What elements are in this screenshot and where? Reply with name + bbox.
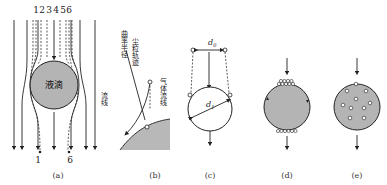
- particle: [223, 48, 227, 52]
- caption-c: (c): [205, 171, 216, 180]
- panel-a: 液滴 1 2 3 4 5 6 1 6 流线 (a): [14, 5, 109, 180]
- caption-e: (e): [352, 171, 363, 180]
- particles-top: [277, 79, 294, 85]
- caption-d: (d): [281, 171, 292, 180]
- caption-a: (a): [52, 171, 63, 180]
- streamline: [22, 20, 27, 148]
- collector-surface: [120, 119, 170, 150]
- panel-d: (d): [264, 58, 310, 180]
- label-d0: d0: [208, 38, 217, 48]
- particle-trajectory: [34, 20, 36, 66]
- droplet: [334, 84, 380, 130]
- streamline-label: 流线: [100, 91, 109, 106]
- panel-e: (e): [334, 58, 380, 180]
- particle: [145, 125, 149, 129]
- trajectory-number: 2: [39, 5, 45, 15]
- droplet: [264, 84, 310, 130]
- trajectory-number: 1: [35, 155, 41, 165]
- trajectory-number: 3: [46, 5, 52, 15]
- trajectory-end-dot: [39, 151, 42, 154]
- trajectory-number: 6: [66, 5, 72, 15]
- label-gas-streamline: 气体流线: [159, 77, 168, 106]
- trajectory-end-dot: [68, 151, 71, 154]
- trajectory-number: 1: [33, 5, 39, 15]
- panel-c: d0 d1 (c): [188, 38, 232, 180]
- label-particle-trajectory: 尘粒轨迹: [131, 37, 140, 67]
- particle-trajectory: [66, 20, 69, 64]
- dashed-streamline: [225, 52, 229, 93]
- streamline: [80, 20, 86, 148]
- trajectory-number: 4: [53, 5, 59, 15]
- droplet-label: 液滴: [45, 79, 63, 90]
- particle: [148, 80, 152, 84]
- particle: [191, 48, 195, 52]
- label-curvature-radius: 曲率半径: [120, 29, 129, 58]
- caption-b: (b): [149, 171, 160, 180]
- trajectory-number: 6: [67, 155, 73, 165]
- dashed-streamline: [191, 52, 193, 93]
- figure-diagram: 液滴 1 2 3 4 5 6 1 6 流线 (a) 曲率半径 尘粒轨迹 气体流线…: [0, 0, 387, 185]
- panel-b: 曲率半径 尘粒轨迹 气体流线 (b): [120, 29, 170, 180]
